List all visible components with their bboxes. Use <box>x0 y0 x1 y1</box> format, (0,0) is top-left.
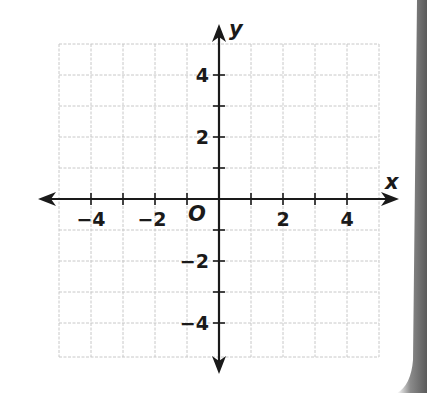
y-tick-label-2: 2 <box>196 126 209 148</box>
y-tick-label-4: 4 <box>196 64 209 86</box>
y-axis-label: y <box>229 17 244 41</box>
y-tick-label-neg2: −2 <box>180 250 209 272</box>
origin-label: O <box>188 202 206 226</box>
x-axis-label: x <box>384 170 400 194</box>
y-tick-label-neg4: −4 <box>180 312 209 334</box>
x-tick-label-neg4: −4 <box>76 208 105 230</box>
coordinate-plane: y x −4 −2 O 2 4 4 2 −2 −4 <box>0 0 427 393</box>
x-tick-label-4: 4 <box>340 208 353 230</box>
x-tick-label-2: 2 <box>276 208 289 230</box>
x-tick-label-neg2: −2 <box>137 208 166 230</box>
